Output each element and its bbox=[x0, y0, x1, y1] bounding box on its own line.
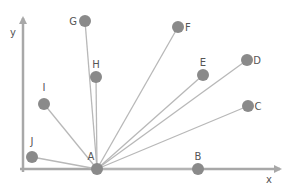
point-label-d: D bbox=[253, 55, 261, 66]
vector-line-c bbox=[97, 106, 248, 169]
point-label-a: A bbox=[88, 151, 95, 162]
point-h bbox=[90, 71, 102, 83]
point-label-f: F bbox=[185, 22, 191, 33]
point-label-j: J bbox=[30, 136, 34, 147]
point-i bbox=[38, 98, 50, 110]
diagram-canvas: xyABCDEFGHIJ bbox=[0, 0, 296, 194]
point-label-c: C bbox=[255, 101, 262, 112]
vector-diagram: xyABCDEFGHIJ bbox=[0, 0, 296, 194]
point-f bbox=[172, 21, 184, 33]
point-j bbox=[26, 151, 38, 163]
point-c bbox=[242, 100, 254, 112]
vector-line-e bbox=[97, 75, 203, 169]
point-label-g: G bbox=[69, 16, 77, 27]
point-label-h: H bbox=[92, 59, 100, 70]
vector-lines bbox=[32, 21, 248, 169]
x-axis-label: x bbox=[266, 174, 272, 185]
point-b bbox=[192, 163, 204, 175]
vector-line-f bbox=[97, 27, 178, 169]
point-label-i: I bbox=[43, 82, 46, 93]
point-label-b: B bbox=[195, 151, 202, 162]
vector-line-d bbox=[97, 60, 247, 169]
vector-line-g bbox=[85, 21, 97, 169]
y-axis-label: y bbox=[10, 27, 16, 38]
point-g bbox=[79, 15, 91, 27]
axes bbox=[20, 18, 280, 172]
point-d bbox=[241, 54, 253, 66]
point-label-e: E bbox=[200, 57, 206, 68]
point-a bbox=[91, 163, 103, 175]
point-e bbox=[197, 69, 209, 81]
